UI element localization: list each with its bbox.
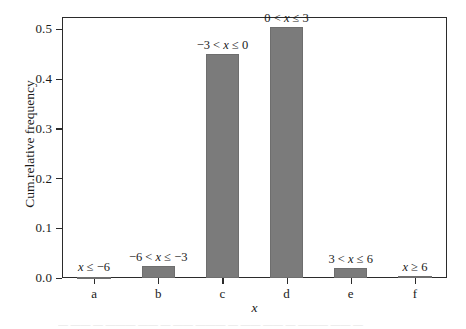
- y-tick-mark: [56, 128, 62, 129]
- plot-area: [62, 17, 447, 278]
- bar-value-label: x ≥ 6: [383, 260, 447, 275]
- x-tick-mark: [94, 278, 95, 284]
- y-tick-label: 0.0: [35, 269, 52, 287]
- cropped-caption-strip: — —— — ——— —— — —— ——— — —— —— — ——— —— …: [58, 320, 410, 328]
- y-tick-mark: [56, 278, 62, 279]
- bar-chart-figure: 0.00.10.20.30.40.5 Cum.relative frequenc…: [0, 0, 466, 329]
- y-tick-mark: [56, 29, 62, 30]
- y-tick-mark: [56, 228, 62, 229]
- bar-value-label: x ≤ −6: [62, 260, 126, 275]
- x-tick-mark: [351, 278, 352, 284]
- x-tick-mark: [158, 278, 159, 284]
- bar: [270, 27, 303, 278]
- y-tick-mark: [56, 79, 62, 80]
- bar-value-label: 0 < x ≤ 3: [255, 11, 319, 26]
- bar-value-label: 3 < x ≤ 6: [319, 252, 383, 267]
- y-tick-mark: [56, 178, 62, 179]
- bar: [334, 268, 367, 278]
- bar: [398, 276, 431, 278]
- x-axis-title: x: [62, 300, 447, 316]
- x-tick-mark: [287, 278, 288, 284]
- y-axis-title: Cum.relative frequency: [22, 29, 38, 259]
- bar-value-label: −3 < x ≤ 0: [190, 38, 254, 53]
- bar: [206, 54, 239, 278]
- x-tick-mark: [222, 278, 223, 284]
- bar: [142, 266, 175, 278]
- x-tick-mark: [415, 278, 416, 284]
- bar: [77, 277, 110, 279]
- bar-value-label: −6 < x ≤ −3: [126, 250, 190, 265]
